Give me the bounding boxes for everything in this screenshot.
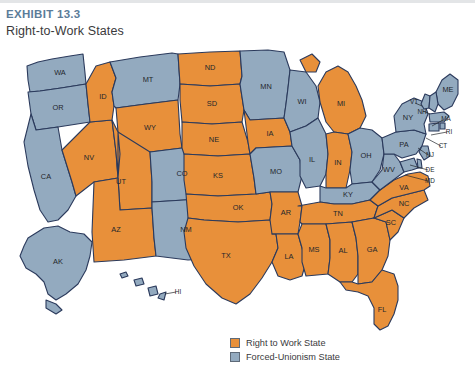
exhibit-page: EXHIBIT 13.3 Right-to-Work States WAORCA… — [0, 0, 475, 372]
state-ar[interactable] — [270, 192, 302, 234]
us-map-figure: WAORCANVIDMTWYUTAZCONMNDSDNEKSOKTXMNIAMO… — [0, 42, 475, 334]
state-in[interactable] — [326, 132, 352, 188]
state-label-ri: RI — [446, 128, 453, 135]
state-ok[interactable] — [186, 192, 272, 222]
top-divider — [0, 0, 475, 3]
state-nh[interactable] — [429, 92, 438, 112]
state-sd[interactable] — [180, 84, 244, 124]
legend-swatch-right-to-work — [230, 338, 240, 348]
leader-ct — [426, 138, 441, 146]
page-title: Right-to-Work States — [6, 24, 124, 38]
state-mo[interactable] — [250, 146, 302, 194]
us-states-map: WAORCANVIDMTWYUTAZCONMNDSDNEKSOKTXMNIAMO… — [0, 42, 475, 334]
legend-swatch-forced-unionism — [230, 352, 240, 362]
state-hi[interactable] — [120, 272, 166, 300]
state-ma[interactable] — [429, 112, 449, 122]
state-me[interactable] — [436, 74, 458, 110]
state-label-hi: HI — [175, 288, 182, 295]
legend-label-forced-unionism: Forced-Unionism State — [246, 352, 340, 362]
leader-ri — [431, 132, 447, 135]
map-legend: Right to Work State Forced-Unionism Stat… — [230, 336, 340, 364]
state-mn[interactable] — [240, 50, 290, 120]
state-label-de: DE — [426, 166, 435, 173]
legend-item-forced-unionism: Forced-Unionism State — [230, 350, 340, 363]
state-ne[interactable] — [182, 122, 250, 156]
state-al[interactable] — [326, 222, 358, 282]
state-nd[interactable] — [178, 51, 242, 86]
state-nj[interactable] — [419, 146, 430, 160]
legend-label-right-to-work: Right to Work State — [246, 338, 326, 348]
leader-hi — [165, 292, 176, 294]
state-or[interactable] — [28, 84, 90, 130]
state-ak[interactable] — [20, 226, 92, 314]
legend-item-right-to-work: Right to Work State — [230, 336, 340, 349]
state-ks[interactable] — [184, 154, 256, 196]
state-tx[interactable] — [184, 218, 278, 304]
exhibit-number-label: EXHIBIT 13.3 — [6, 8, 81, 20]
state-ct[interactable] — [429, 123, 439, 131]
state-pa[interactable] — [382, 130, 426, 158]
state-ri[interactable] — [440, 123, 445, 129]
state-md[interactable] — [400, 158, 418, 172]
state-mt[interactable] — [110, 53, 180, 108]
